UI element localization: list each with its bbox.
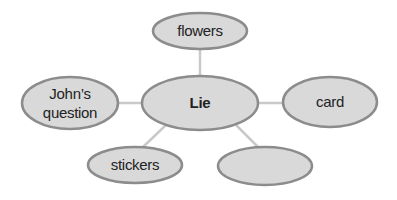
connector-lie-empty: [236, 125, 259, 148]
node-flowers: flowers: [153, 13, 247, 49]
node-label: question: [43, 104, 97, 121]
node-johns-question: John’squestion: [22, 77, 118, 129]
nodes: flowersJohn’squestioncardstickersLie: [22, 13, 377, 185]
node-card: card: [283, 77, 377, 127]
node-stickers: stickers: [88, 147, 182, 183]
node-label: stickers: [111, 156, 159, 173]
node-label: Lie: [190, 94, 211, 111]
node-label: John’s: [49, 85, 90, 102]
node-empty: [218, 147, 312, 185]
connector-lie-stickers: [143, 125, 166, 147]
mind-map-diagram: flowersJohn’squestioncardstickersLie: [0, 0, 397, 200]
node-lie: Lie: [142, 76, 258, 130]
node-ellipse: [218, 147, 312, 185]
node-label: card: [316, 93, 344, 110]
node-label: flowers: [177, 22, 222, 39]
